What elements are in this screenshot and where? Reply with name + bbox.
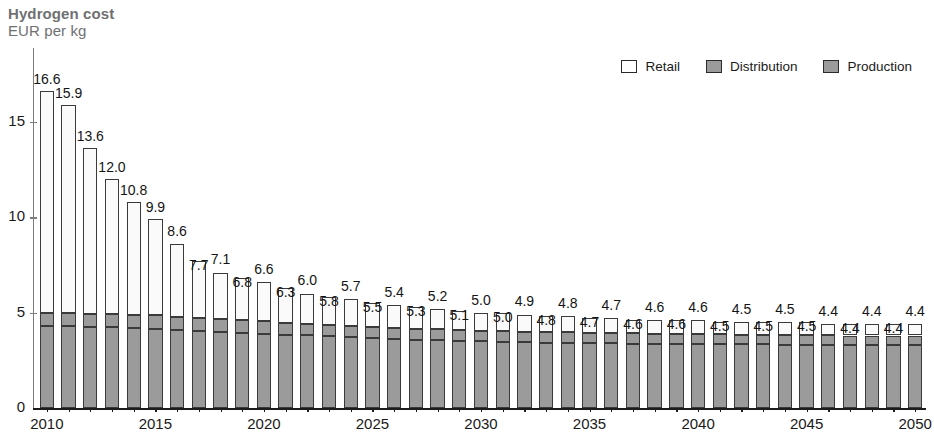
bar-2036[interactable] (604, 318, 618, 408)
bar-segment-production (257, 334, 271, 408)
bar-2035[interactable] (582, 318, 596, 408)
bar-segment-production (148, 329, 162, 408)
bar-2013[interactable] (105, 179, 119, 408)
bar-2018[interactable] (213, 273, 227, 409)
bar-segment-distribution (344, 326, 358, 337)
bar-2039[interactable] (669, 320, 683, 408)
bar-segment-distribution (40, 313, 54, 326)
bar-segment-production (756, 344, 770, 408)
bar-2040[interactable] (691, 320, 705, 408)
bar-2049[interactable] (886, 324, 900, 408)
bar-2029[interactable] (452, 311, 466, 408)
bar-value-label: 4.5 (732, 301, 751, 317)
bar-segment-production (539, 343, 553, 408)
x-tick-mark (242, 408, 243, 412)
bar-segment-distribution (387, 328, 401, 339)
x-tick-mark (459, 408, 460, 412)
bar-2041[interactable] (713, 322, 727, 408)
x-tick-mark (893, 408, 894, 412)
bar-value-label: 4.4 (819, 303, 838, 319)
bar-segment-retail (517, 315, 531, 332)
bar-segment-production (669, 344, 683, 408)
bar-value-label: 4.8 (558, 295, 577, 311)
bar-value-label: 5.0 (493, 309, 512, 325)
bar-segment-distribution (61, 313, 75, 326)
bar-2027[interactable] (409, 307, 423, 408)
bar-segment-retail (300, 294, 314, 324)
bar-2012[interactable] (83, 148, 97, 408)
x-axis-line (33, 408, 926, 410)
bar-2019[interactable] (235, 278, 249, 408)
y-axis-line (33, 48, 34, 408)
bar-2034[interactable] (561, 316, 575, 408)
bar-2045[interactable] (799, 322, 813, 408)
bar-segment-production (365, 338, 379, 408)
bar-segment-production (192, 331, 206, 408)
bar-segment-retail (40, 91, 54, 312)
bar-2050[interactable] (908, 324, 922, 408)
bar-2023[interactable] (322, 297, 336, 408)
bar-segment-production (517, 342, 531, 408)
bar-2026[interactable] (387, 305, 401, 408)
bar-segment-distribution (430, 329, 444, 340)
bar-segment-production (886, 345, 900, 408)
bar-2033[interactable] (539, 316, 553, 408)
bar-2016[interactable] (170, 244, 184, 408)
bar-2038[interactable] (647, 320, 661, 408)
bar-2017[interactable] (192, 261, 206, 408)
bar-2030[interactable] (474, 313, 488, 408)
x-tick-mark (112, 408, 113, 412)
bar-2028[interactable] (430, 309, 444, 408)
bar-value-label: 4.5 (775, 301, 794, 317)
bar-value-label: 5.8 (319, 293, 338, 309)
bar-2032[interactable] (517, 314, 531, 408)
bar-value-label: 4.6 (623, 316, 642, 332)
bar-2020[interactable] (257, 282, 271, 408)
bar-segment-distribution (105, 314, 119, 327)
x-tick-label-2025: 2025 (342, 415, 402, 432)
bar-segment-distribution (582, 333, 596, 343)
bar-2025[interactable] (365, 303, 379, 408)
bar-2015[interactable] (148, 219, 162, 408)
bar-segment-production (213, 332, 227, 408)
bar-2014[interactable] (127, 202, 141, 408)
bar-2042[interactable] (734, 322, 748, 408)
x-tick-mark (655, 408, 656, 412)
bar-segment-production (452, 341, 466, 408)
bar-value-label: 6.8 (232, 274, 251, 290)
bar-value-label: 4.7 (602, 297, 621, 313)
bar-2037[interactable] (626, 320, 640, 408)
bar-2043[interactable] (756, 322, 770, 408)
x-tick-mark (47, 408, 48, 412)
bar-2046[interactable] (821, 324, 835, 408)
bar-2022[interactable] (300, 294, 314, 409)
bar-segment-retail (387, 305, 401, 328)
bar-segment-distribution (865, 336, 879, 346)
bar-value-label: 4.4 (840, 320, 859, 336)
x-tick-mark (372, 408, 373, 412)
x-tick-mark (329, 408, 330, 412)
bar-segment-production (40, 326, 54, 408)
bar-segment-retail (691, 320, 705, 334)
bar-segment-distribution (517, 332, 531, 342)
bar-2021[interactable] (278, 288, 292, 408)
bar-segment-distribution (300, 324, 314, 336)
bar-segment-retail (127, 202, 141, 315)
bar-2011[interactable] (61, 105, 75, 408)
bar-value-label: 4.5 (710, 318, 729, 334)
bar-2047[interactable] (843, 324, 857, 408)
bar-value-label: 4.8 (536, 312, 555, 328)
bar-segment-retail (821, 324, 835, 335)
bar-value-label: 4.4 (884, 320, 903, 336)
bar-2048[interactable] (865, 324, 879, 408)
bar-2031[interactable] (496, 313, 510, 408)
bar-2010[interactable] (40, 91, 54, 408)
bar-2024[interactable] (344, 299, 358, 408)
bar-segment-distribution (734, 335, 748, 345)
bar-2044[interactable] (778, 322, 792, 408)
bar-segment-retail (170, 244, 184, 317)
bar-segment-distribution (886, 336, 900, 346)
y-tick-label: 10 (1, 207, 25, 224)
bar-segment-distribution (604, 333, 618, 343)
bar-segment-retail (213, 273, 227, 320)
